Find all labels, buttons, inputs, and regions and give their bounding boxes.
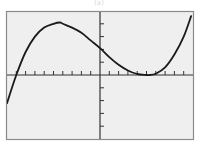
function-graph: [0, 0, 198, 146]
